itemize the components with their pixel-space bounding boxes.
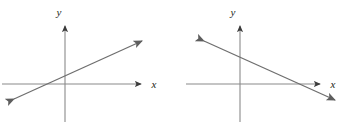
y-axis-label: y	[230, 6, 236, 18]
x-axis-label: x	[330, 78, 336, 90]
negative-slope-graph: x y	[179, 0, 358, 126]
line-negative-slope	[204, 41, 335, 100]
positive-slope-graph: x y	[0, 0, 179, 126]
y-axis-label: y	[56, 6, 62, 18]
two-line-graphs-figure: x y x y	[0, 0, 358, 126]
x-axis-label: x	[151, 78, 157, 90]
line-positive-slope	[14, 41, 142, 99]
